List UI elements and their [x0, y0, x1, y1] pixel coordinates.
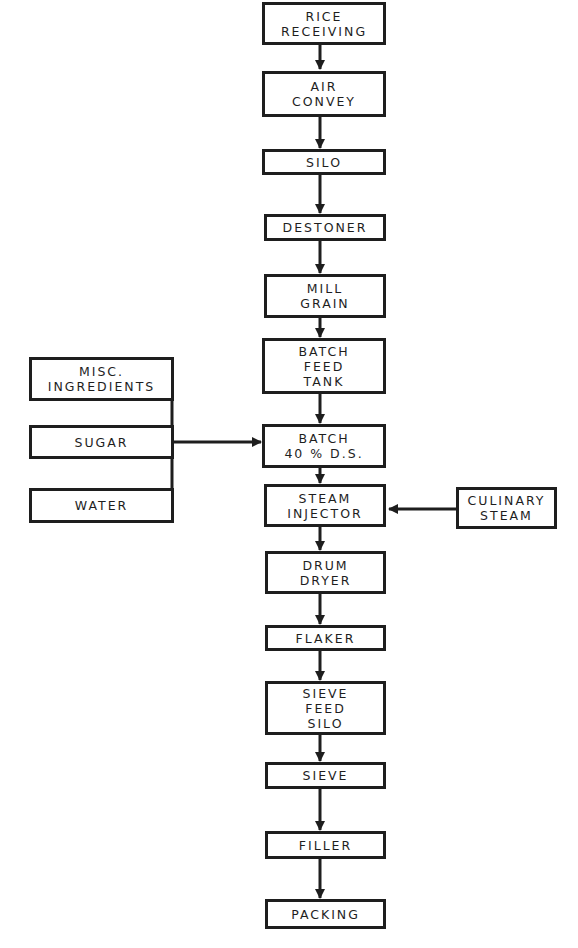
node-label: SIEVE: [303, 768, 349, 783]
node-destoner: DESTONER: [264, 214, 386, 241]
node-label: DRUM: [302, 558, 348, 573]
node-rice-receiving: RICE RECEIVING: [262, 2, 386, 45]
node-packing: PACKING: [265, 899, 386, 929]
node-label: STEAM: [480, 508, 533, 523]
node-label: SILO: [306, 155, 342, 170]
node-label: AIR: [311, 79, 338, 94]
node-drum-dryer: DRUM DRYER: [265, 551, 386, 594]
node-label: RICE: [306, 9, 343, 24]
node-label: BATCH: [298, 344, 349, 359]
node-sieve: SIEVE: [265, 762, 386, 789]
node-label: PACKING: [291, 907, 360, 922]
node-label: 40 % D.S.: [284, 446, 363, 461]
node-label: WATER: [75, 498, 128, 513]
node-label: FILLER: [299, 838, 352, 853]
node-label: GRAIN: [300, 296, 349, 311]
node-misc-ingredients: MISC. INGREDIENTS: [29, 357, 174, 401]
node-steam-injector: STEAM INJECTOR: [264, 484, 386, 527]
connector-lines: [0, 0, 578, 948]
node-sugar: SUGAR: [29, 425, 174, 459]
node-batch: BATCH 40 % D.S.: [262, 424, 386, 468]
node-batch-feed-tank: BATCH FEED TANK: [262, 338, 386, 394]
node-label: FLAKER: [296, 631, 356, 646]
node-label: MILL: [307, 281, 343, 296]
node-sieve-feed-silo: SIEVE FEED SILO: [265, 681, 386, 735]
node-label: INJECTOR: [287, 506, 363, 521]
node-label: SILO: [308, 716, 344, 731]
node-label: RECEIVING: [281, 24, 367, 39]
node-label: STEAM: [299, 491, 352, 506]
node-label: DRYER: [300, 573, 352, 588]
node-label: BATCH: [298, 431, 349, 446]
node-water: WATER: [29, 488, 174, 523]
node-label: DESTONER: [283, 220, 368, 235]
node-label: SIEVE: [303, 686, 349, 701]
node-label: FEED: [304, 359, 345, 374]
node-label: TANK: [304, 374, 345, 389]
node-label: SUGAR: [74, 435, 128, 450]
node-silo: SILO: [262, 149, 386, 175]
node-filler: FILLER: [265, 831, 386, 859]
node-label: CONVEY: [292, 94, 356, 109]
node-mill-grain: MILL GRAIN: [264, 274, 386, 318]
node-culinary-steam: CULINARY STEAM: [456, 487, 557, 529]
node-flaker: FLAKER: [265, 625, 386, 651]
node-label: INGREDIENTS: [48, 379, 155, 394]
node-label: FEED: [305, 701, 346, 716]
node-label: MISC.: [79, 364, 124, 379]
node-label: CULINARY: [468, 493, 546, 508]
node-air-convey: AIR CONVEY: [262, 71, 386, 117]
